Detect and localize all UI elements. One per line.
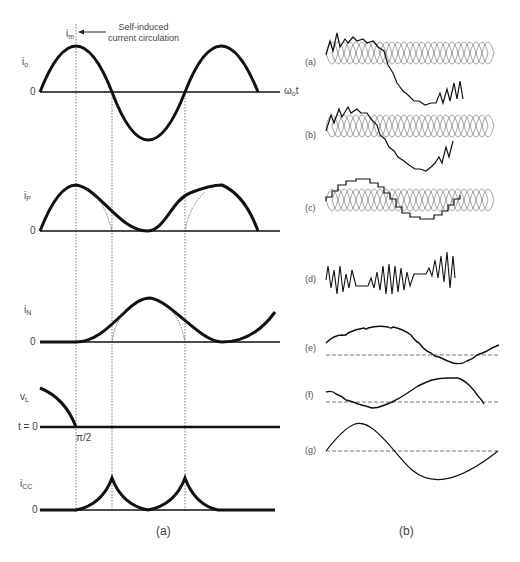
plot-in [40,298,280,342]
caption-a: (a) [156,524,171,538]
label-in: iN [24,304,31,316]
label-io: io [22,56,28,68]
plot-icc [40,478,275,510]
zero-io: 0 [30,86,36,97]
label-b-e: (e) [305,343,316,353]
zero-vl: t = 0 [18,421,38,432]
label-im: im [66,28,74,40]
label-b-f: (f) [305,390,314,400]
plot-b-e [326,326,499,363]
zero-ip: 0 [30,225,36,236]
zero-in: 0 [30,336,36,347]
label-b-d: (d) [305,274,316,284]
caption-b: (b) [399,524,414,538]
plot-b-b [326,107,494,171]
label-pi-half: π/2 [76,432,91,443]
label-b-b: (b) [305,130,316,140]
guide-lines [76,24,185,512]
label-b-g: (g) [305,445,316,455]
plot-b-g [326,423,498,479]
plot-b-c [326,179,494,219]
zero-icc: 0 [32,504,38,515]
label-b-a: (a) [305,57,316,67]
annotation-text: Self-inducedcurrent circulation [108,22,179,44]
annotation-arrow [78,30,106,35]
plot-b-f [326,378,498,408]
label-ip: iP [24,190,31,202]
plot-b-a [326,33,494,105]
figure-canvas [0,0,520,562]
plot-b-d [326,252,455,294]
label-icc: iCC [20,478,32,490]
label-vl: vL [20,391,29,403]
label-b-c: (c) [305,203,316,213]
label-omega-t: ωot [284,85,299,97]
